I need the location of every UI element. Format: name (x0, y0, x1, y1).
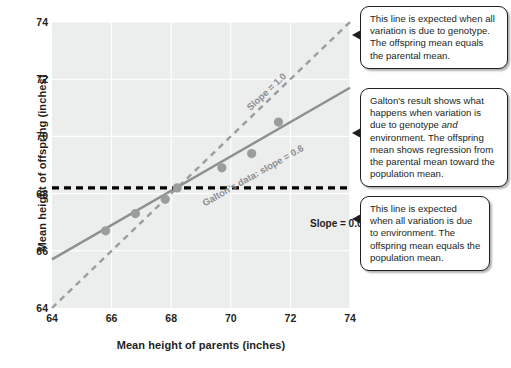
x-axis-ticks: 646668707274 (52, 312, 350, 328)
x-tick-label-72: 72 (270, 312, 310, 324)
x-tick-label-64: 64 (32, 312, 72, 324)
data-series (52, 22, 350, 308)
callout-galton-text-part2: environment. The offspring mean shows re… (370, 132, 495, 180)
y-axis-title: Mean height of offspring (inches) (36, 48, 48, 278)
galton-regression-figure: Slope = 1.0 Galton's data: slope = 0.6 S… (0, 0, 511, 368)
plot-area: Slope = 1.0 Galton's data: slope = 0.6 S… (52, 22, 350, 308)
callout-genotype: This line is expected when all variation… (360, 6, 508, 69)
callout-galton: Galton's result shows what happens when … (360, 88, 508, 187)
x-axis-title: Mean height of parents (inches) (52, 339, 350, 351)
x-tick-label-68: 68 (151, 312, 191, 324)
x-tick-label-74: 74 (330, 312, 370, 324)
callout-environment: This line is expected when all variation… (360, 196, 490, 271)
y-tick-label-74: 74 (18, 16, 48, 28)
callout-galton-text-part1: Galton's result shows what happens when … (370, 95, 484, 130)
x-tick-label-66: 66 (92, 312, 132, 324)
x-tick-label-70: 70 (211, 312, 251, 324)
callout-galton-emphasis: and (441, 119, 457, 130)
